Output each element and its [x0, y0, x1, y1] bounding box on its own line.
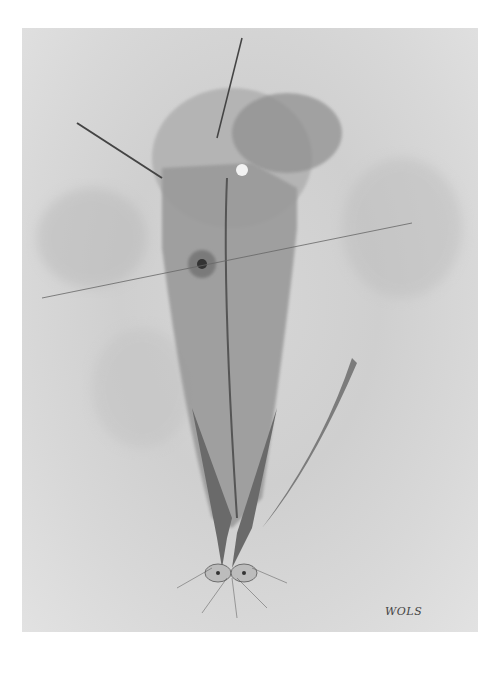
abstract-drawing — [22, 28, 478, 632]
artist-signature: WOLS — [385, 605, 422, 618]
artwork-paper: WOLS — [22, 28, 478, 632]
